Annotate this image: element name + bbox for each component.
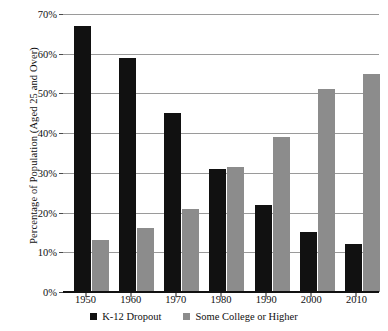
y-tick-label: 60%: [38, 48, 57, 59]
bar: [255, 205, 272, 292]
bar-group: [289, 14, 334, 292]
bar-group: [153, 14, 198, 292]
bar: [363, 74, 380, 292]
bar-group: [334, 14, 379, 292]
x-tick-label: 2000: [289, 294, 334, 305]
bar: [92, 240, 109, 292]
bar: [318, 89, 335, 292]
bar-group: [63, 14, 108, 292]
bar: [300, 232, 317, 292]
x-tick-label: 1950: [63, 294, 108, 305]
bar-group: [108, 14, 153, 292]
bar: [209, 169, 226, 292]
y-tick-label: 30%: [38, 167, 57, 178]
bar-group: [244, 14, 289, 292]
bar-groups: [63, 14, 379, 292]
bar: [345, 244, 362, 292]
bar: [74, 26, 91, 292]
bar: [182, 209, 199, 292]
bar: [137, 228, 154, 292]
legend-label: K-12 Dropout: [102, 311, 161, 322]
y-tick-label: 0%: [43, 287, 57, 298]
x-axis-labels: 1950196019701980199020002010: [63, 294, 379, 305]
x-tick-label: 1960: [108, 294, 153, 305]
x-axis-line: [63, 291, 379, 293]
y-tick-label: 20%: [38, 207, 57, 218]
y-axis-line: [62, 14, 63, 292]
x-tick-label: 1980: [198, 294, 243, 305]
y-tick-label: 10%: [38, 247, 57, 258]
legend-item: Some College or Higher: [183, 311, 297, 322]
bar: [273, 137, 290, 292]
x-tick-label: 2010: [334, 294, 379, 305]
legend-swatch-icon: [90, 313, 97, 320]
y-tick-label: 70%: [38, 9, 57, 20]
y-tick-label: 50%: [38, 88, 57, 99]
x-tick-label: 1970: [153, 294, 198, 305]
bar: [164, 113, 181, 292]
bar-group: [198, 14, 243, 292]
bar: [119, 58, 136, 292]
plot-area: 0%10%20%30%40%50%60%70%: [63, 14, 379, 292]
chart-legend: K-12 DropoutSome College or Higher: [0, 311, 388, 322]
legend-label: Some College or Higher: [195, 311, 297, 322]
x-tick-label: 1990: [244, 294, 289, 305]
legend-swatch-icon: [183, 313, 190, 320]
legend-item: K-12 Dropout: [90, 311, 161, 322]
y-tick-label: 40%: [38, 128, 57, 139]
bar: [227, 167, 244, 292]
bar-chart: Percentage of Population (Aged 25 and Ov…: [0, 0, 388, 331]
